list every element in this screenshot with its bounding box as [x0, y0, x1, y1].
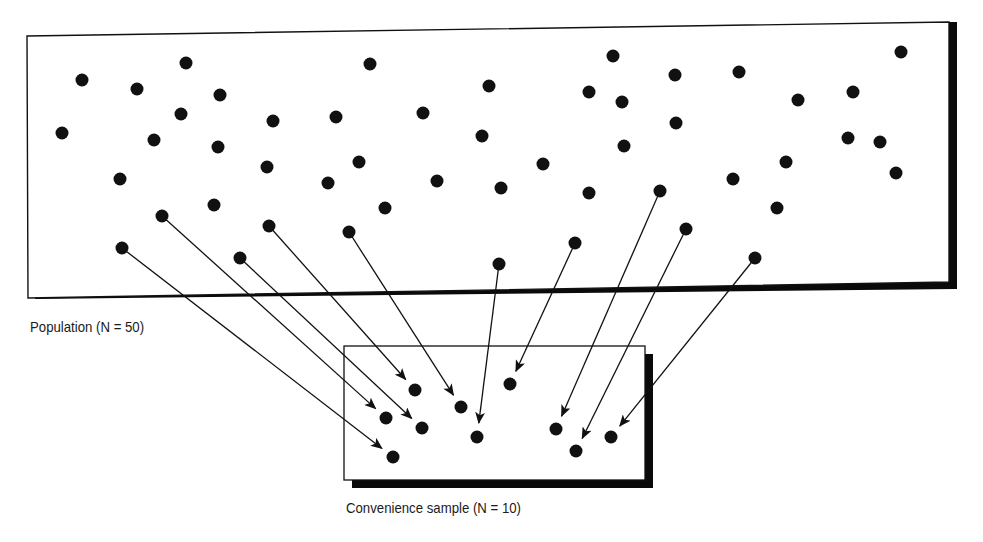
- sample-dot: [570, 445, 583, 458]
- population-dot: [669, 69, 682, 82]
- population-dot: [212, 141, 225, 154]
- sample-dot: [471, 431, 484, 444]
- population-dot: [842, 132, 855, 145]
- population-dot: [847, 86, 860, 99]
- sample-dot: [605, 431, 618, 444]
- population-dot: [495, 182, 508, 195]
- population-dot: [180, 57, 193, 70]
- sample-label: Convenience sample (N = 10): [346, 499, 521, 516]
- population-dot: [616, 96, 629, 109]
- population-dot: [483, 80, 496, 93]
- population-dot: [583, 187, 596, 200]
- population-dot: [890, 167, 903, 180]
- population-dot: [792, 94, 805, 107]
- population-dot: [208, 199, 221, 212]
- sample-dot: [409, 384, 422, 397]
- sample-dot: [455, 401, 468, 414]
- population-dot: [214, 89, 227, 102]
- population-dot: [364, 58, 377, 71]
- population-label: Population (N = 50): [30, 318, 144, 335]
- population-box-frame: [27, 22, 949, 298]
- population-dot: [537, 158, 550, 171]
- population-dot: [780, 156, 793, 169]
- population-dot: [727, 173, 740, 186]
- population-dot: [322, 177, 335, 190]
- population-dot: [114, 173, 127, 186]
- population-dot: [148, 134, 161, 147]
- population-dot: [76, 74, 89, 87]
- population-box: [27, 22, 957, 299]
- population-dot: [895, 46, 908, 59]
- population-dot: [771, 202, 784, 215]
- population-dot: [330, 111, 343, 124]
- population-dot: [353, 156, 366, 169]
- population-dot: [261, 161, 274, 174]
- population-dot: [874, 136, 887, 149]
- population-dot: [431, 175, 444, 188]
- population-dot: [56, 127, 69, 140]
- population-dot: [131, 83, 144, 96]
- population-dot: [618, 140, 631, 153]
- sample-dot: [387, 451, 400, 464]
- sampling-diagram: [0, 0, 983, 542]
- sample-dot: [504, 378, 517, 391]
- population-dot: [175, 108, 188, 121]
- population-dot: [417, 107, 430, 120]
- population-dot: [379, 202, 392, 215]
- population-dot: [583, 86, 596, 99]
- population-dot: [670, 117, 683, 130]
- sample-dot: [550, 423, 563, 436]
- population-dot: [733, 66, 746, 79]
- sample-dot: [416, 422, 429, 435]
- population-dot: [607, 50, 620, 63]
- population-dot: [476, 130, 489, 143]
- sample-dot: [380, 412, 393, 425]
- population-dot: [267, 115, 280, 128]
